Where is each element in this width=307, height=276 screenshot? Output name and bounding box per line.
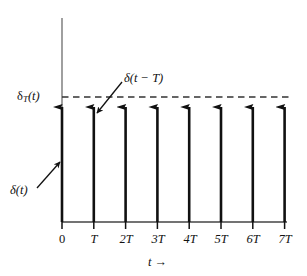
first-impulse-label: δ(t) (10, 184, 28, 197)
tick-label-6: 6T (246, 233, 259, 246)
tick-label-0: 0 (59, 233, 65, 246)
envelope-label-arg: (t) (28, 89, 40, 103)
impulse-train-figure: δT(t) δ(t − T) δ(t) 0 T 2T 3T 4T 5T 6T 7… (0, 0, 307, 276)
impulse-train (62, 107, 285, 222)
tick-label-2: 2T (119, 233, 132, 246)
tick-label-4: 4T (183, 233, 196, 246)
envelope-label: δT(t) (17, 90, 40, 104)
tick-label-3: 3T (151, 233, 164, 246)
tick-label-1: T (91, 233, 98, 246)
x-axis-label-symbol: t (148, 255, 151, 269)
shifted-impulse-label: δ(t − T) (124, 72, 163, 85)
tick-label-5: 5T (214, 233, 227, 246)
x-axis-label: t → (148, 256, 167, 269)
x-axis-label-arrow: → (155, 255, 168, 269)
first-impulse-leader-arrow (37, 162, 60, 188)
tick-label-7: 7T (278, 233, 291, 246)
x-axis-ticks (62, 222, 285, 229)
